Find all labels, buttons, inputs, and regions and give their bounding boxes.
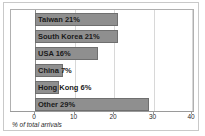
bar-label-hong-kong: Hong Kong 6% [38,81,91,94]
bar-series: Taiwan 21% South Korea 21% USA 16% China… [11,10,193,111]
tick-label-10: 10 [70,113,77,120]
tick-label-30: 30 [149,113,156,120]
bar-label-taiwan: Taiwan 21% [38,13,80,26]
plot-frame: Taiwan 21% South Korea 21% USA 16% China… [10,9,194,112]
bar-label-other: Other 29% [38,98,75,111]
bar-row: Hong Kong 6% [11,79,193,96]
bar-label-usa: USA 16% [38,47,71,60]
bar-label-china: China 7% [38,64,72,77]
bar-row: Taiwan 21% [11,11,193,28]
tick-label-20: 20 [109,113,116,120]
plot-area: Taiwan 21% South Korea 21% USA 16% China… [11,10,193,111]
bar-row: USA 16% [11,45,193,62]
bar-label-south-korea: South Korea 21% [38,30,100,43]
bar-row: China 7% [11,62,193,79]
tick-label-0: 0 [32,113,36,120]
chart-card: Taiwan 21% South Korea 21% USA 16% China… [3,2,199,131]
x-axis-title: % of total arrivals [12,121,62,128]
bar-row: South Korea 21% [11,28,193,45]
tick-label-40: 40 [187,113,194,120]
x-axis-line [10,111,194,112]
